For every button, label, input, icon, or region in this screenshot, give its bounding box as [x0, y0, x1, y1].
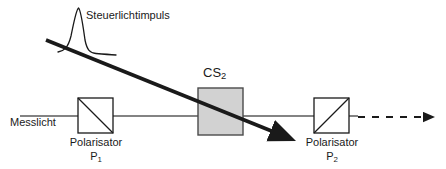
polariser-2-label-symbol: P2	[299, 151, 365, 162]
polariser-1-symbol-index: 1	[97, 155, 101, 164]
polariser-2-label-name: Polarisator	[306, 136, 359, 148]
cs2-label-main: CS	[203, 65, 221, 80]
polariser-2-symbol-index: 2	[333, 155, 337, 164]
polariser-1-label-symbol: P1	[63, 151, 129, 162]
cs2-label: CS2	[203, 66, 226, 79]
polariser-1-label-name: Polarisator	[70, 136, 123, 148]
polariser-2-label: Polarisator P2	[299, 137, 365, 162]
messlicht-label: Messlicht	[10, 117, 56, 128]
kerr-effect-diagram: Messlicht Steuerlichtimpuls CS2 Polarisa…	[0, 0, 446, 169]
cs2-label-subscript: 2	[221, 71, 226, 81]
polariser-1-label: Polarisator P1	[63, 137, 129, 162]
steuerlichtimpuls-label: Steuerlichtimpuls	[86, 10, 170, 21]
